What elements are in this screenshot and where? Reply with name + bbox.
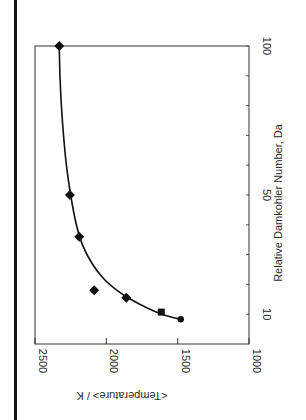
y-axis-ticks	[35, 338, 249, 344]
y-tick-label-2500: 2500	[37, 349, 49, 373]
x-tick-label-100: 100	[261, 37, 273, 55]
diamond-point-0	[54, 41, 64, 51]
x-axis-label: Relative Damkohler Number, Da	[272, 123, 284, 282]
diamond-point-1	[65, 190, 75, 200]
fit-curve	[59, 46, 181, 319]
page-edge-bar	[14, 0, 17, 420]
diamond-point-2	[74, 232, 84, 242]
x-tick-label-10: 10	[261, 308, 273, 320]
y-tick-label-1500: 1500	[180, 349, 192, 373]
y-tick-label-1000: 1000	[251, 349, 263, 373]
data-markers	[54, 41, 184, 322]
chart: 10501001000150020002500 Relative Damkohl…	[0, 0, 306, 420]
fit-curve-path	[59, 46, 181, 319]
square-point-0	[158, 309, 165, 316]
diamond-point-3	[89, 285, 99, 295]
y-tick-label-2000: 2000	[108, 349, 120, 373]
circle-point-0	[178, 316, 184, 322]
y-axis-label: <Temperature> / K	[76, 390, 168, 402]
